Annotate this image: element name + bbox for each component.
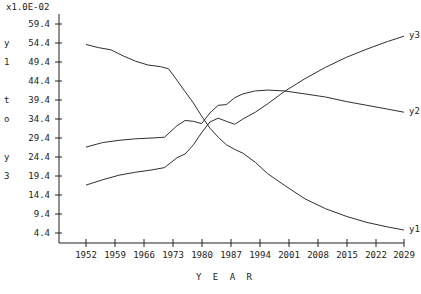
series-line-y2 xyxy=(86,90,404,147)
y-axis-title-char: t xyxy=(4,95,9,105)
x-axis-title: Y E A R xyxy=(196,272,255,282)
y-axis-tick-label: 59.4 xyxy=(6,19,50,29)
y-axis-tick-label: 14.4 xyxy=(6,190,50,200)
y-axis-tick-label: 44.4 xyxy=(6,76,50,86)
y-axis-title-char: 1 xyxy=(4,57,9,67)
y-axis-tick-label: 9.4 xyxy=(6,209,50,219)
y-axis-title-char: y xyxy=(4,38,9,48)
y-axis-tick-label: 34.4 xyxy=(6,114,50,124)
series-line-y3 xyxy=(86,36,404,185)
y-axis-tick-label: 19.4 xyxy=(6,171,50,181)
series-label-y3: y3 xyxy=(409,30,420,40)
y-axis-tick-label: 24.4 xyxy=(6,152,50,162)
series-label-y2: y2 xyxy=(409,106,420,116)
y-axis-tick-label: 39.4 xyxy=(6,95,50,105)
y-axis-title-char: 3 xyxy=(4,171,9,181)
y-axis-tick-label: 54.4 xyxy=(6,38,50,48)
series-line-y1 xyxy=(86,45,404,231)
series-label-y1: y1 xyxy=(409,224,420,234)
y-axis-tick-label: 49.4 xyxy=(6,57,50,67)
y-axis-tick-label: 4.4 xyxy=(6,228,50,238)
y-axis-title-char: o xyxy=(4,114,9,124)
y-axis-tick-label: 29.4 xyxy=(6,133,50,143)
y-axis-title-char: y xyxy=(4,152,9,162)
x-axis-tick-label: 2029 xyxy=(387,250,421,260)
